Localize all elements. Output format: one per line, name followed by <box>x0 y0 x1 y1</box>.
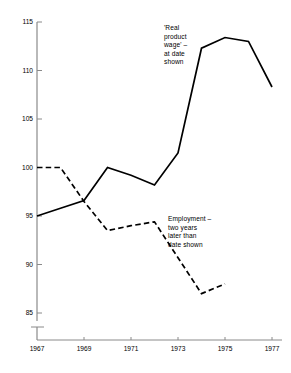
x-tick-label: 1971 <box>124 345 139 352</box>
annotation-real-product-wage: 'Real product wage' – at date shown <box>164 24 187 67</box>
y-tick-label: 95 <box>26 212 34 219</box>
x-tick-label: 1967 <box>30 345 45 352</box>
x-tick-label: 1977 <box>265 345 280 352</box>
y-tick-label: 105 <box>22 115 33 122</box>
y-tick-label: 115 <box>22 18 33 25</box>
annotation-employment: Employment – two years later than date s… <box>168 215 211 249</box>
x-tick-label: 1975 <box>218 345 233 352</box>
line-chart-plot: 115110105100959085 196719691971197319751… <box>0 0 291 373</box>
y-tick-label: 85 <box>26 309 34 316</box>
y-tick-label: 100 <box>22 164 33 171</box>
x-tick-label: 1969 <box>77 345 92 352</box>
x-tick-label: 1973 <box>171 345 186 352</box>
series-line-real-product-wage <box>37 38 272 216</box>
axis-break-icon <box>31 327 44 340</box>
chart-container: 115110105100959085 196719691971197319751… <box>0 0 291 373</box>
x-tick-group: 196719691971197319751977 <box>30 337 280 352</box>
y-tick-label: 110 <box>22 67 33 74</box>
y-tick-label: 90 <box>26 261 34 268</box>
